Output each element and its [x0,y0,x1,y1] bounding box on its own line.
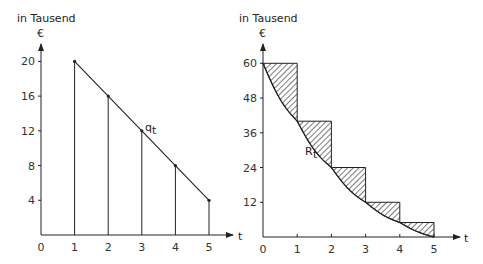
series-label-sub: t [152,124,157,137]
x-tick-label: 2 [105,241,112,254]
y-tick-label: 60 [243,57,257,70]
y-tick-label: 12 [21,125,35,138]
data-point [140,129,143,132]
x-tick-label: 1 [71,241,78,254]
data-point [107,95,110,98]
x-tick-label: 1 [294,243,301,256]
x-tick-label: 0 [260,243,267,256]
x-tick-label: 4 [396,243,403,256]
x-tick-label: 2 [328,243,335,256]
series-label-q: q [145,121,152,134]
y-tick-label: 8 [28,160,35,173]
left-chart: in Tausend€t48121620012345qt [17,12,243,254]
hatched-area [263,63,297,121]
x-axis-label: t [238,230,243,243]
x-tick-label: 0 [38,241,45,254]
x-tick-label: 5 [431,243,438,256]
y-axis-label: in Tausend [239,12,298,25]
y-tick-label: 16 [21,90,35,103]
x-tick-label: 5 [206,241,213,254]
euro-unit-label: € [37,27,44,40]
euro-unit-label: € [259,27,266,40]
hatched-area [400,223,434,237]
x-tick-label: 3 [138,241,145,254]
series-label-sub: t [313,148,318,161]
x-tick-label: 3 [362,243,369,256]
hatched-area [331,168,365,203]
y-tick-label: 24 [243,162,257,175]
y-tick-label: 36 [243,127,257,140]
series-label-r: R [305,145,313,158]
hatched-area [366,202,400,222]
y-tick-label: 48 [243,92,257,105]
charts-canvas: in Tausend€t48121620012345qt in Tausend€… [0,0,483,264]
y-axis-label: in Tausend [17,12,76,25]
data-point [73,60,76,63]
right-chart: in Tausend€t1224364860012345Rt [239,12,469,256]
data-point [174,164,177,167]
y-tick-label: 4 [28,194,35,207]
x-axis-label: t [464,232,469,245]
data-point [207,199,210,202]
y-tick-label: 12 [243,196,257,209]
y-tick-label: 20 [21,55,35,68]
x-tick-label: 4 [172,241,179,254]
